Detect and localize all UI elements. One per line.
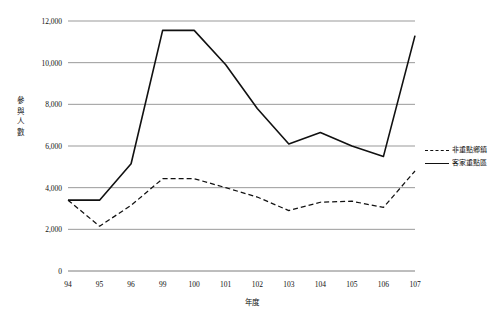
x-tick-label: 106	[368, 280, 398, 289]
legend-label: 非重點鄉鎮	[452, 147, 487, 154]
x-tick-label: 107	[400, 280, 430, 289]
y-tick-label: 12,000	[18, 17, 62, 26]
series-line	[68, 30, 415, 200]
x-tick-label: 94	[53, 280, 83, 289]
line-chart: 參與人數 年度 02,0004,0006,0008,00010,00012,00…	[0, 0, 504, 315]
x-tick-label: 95	[85, 280, 115, 289]
x-axis-title: 年度	[0, 296, 504, 307]
chart-legend: 非重點鄉鎮客家重點區	[425, 144, 487, 170]
y-tick-label: 10,000	[18, 58, 62, 67]
y-tick-label: 4,000	[18, 183, 62, 192]
x-tick-label: 103	[274, 280, 304, 289]
x-tick-label: 99	[148, 280, 178, 289]
y-tick-label: 8,000	[18, 100, 62, 109]
y-tick-label: 6,000	[18, 142, 62, 151]
x-tick-label: 100	[179, 280, 209, 289]
x-tick-label: 96	[116, 280, 146, 289]
legend-line-swatch-icon	[425, 163, 449, 164]
x-tick-label: 101	[211, 280, 241, 289]
y-tick-label: 0	[18, 267, 62, 276]
legend-label: 客家重點區	[452, 160, 487, 167]
legend-entry[interactable]: 客家重點區	[425, 157, 487, 170]
x-tick-label: 104	[305, 280, 335, 289]
x-tick-label: 102	[242, 280, 272, 289]
legend-line-swatch-icon	[425, 150, 449, 151]
x-tick-label: 105	[337, 280, 367, 289]
y-tick-label: 2,000	[18, 225, 62, 234]
series-line	[68, 171, 415, 226]
legend-entry[interactable]: 非重點鄉鎮	[425, 144, 487, 157]
